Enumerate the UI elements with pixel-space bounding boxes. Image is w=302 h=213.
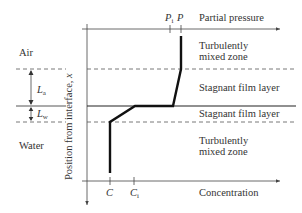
phase-water-label: Water (19, 140, 44, 151)
zone-air-stagnant: Stagnant film layer (199, 82, 279, 93)
tick-label-p: P (177, 12, 183, 23)
concentration-profile (110, 36, 181, 173)
tick-label-c: C (106, 187, 113, 198)
position-axis-label: Position from interface, x (63, 73, 74, 180)
partial-pressure-label: Partial pressure (199, 12, 264, 23)
diagram-canvas (0, 0, 302, 213)
zone-water-turbulent: Turbulentlymixed zone (199, 135, 248, 157)
zone-water-stagnant: Stagnant film layer (199, 108, 279, 119)
phase-air-label: Air (19, 47, 33, 58)
zone-air-turbulent: Turbulentlymixed zone (199, 40, 248, 62)
la-label: La (37, 84, 46, 99)
concentration-label: Concentration (199, 187, 258, 198)
tick-label-pi: Pi (165, 12, 173, 27)
lw-label: Lw (37, 108, 48, 123)
tick-label-ci: Ci (130, 187, 139, 202)
